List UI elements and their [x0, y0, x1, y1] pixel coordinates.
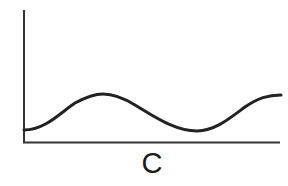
x-axis-label: C [134, 148, 170, 178]
wave-diagram: C [0, 0, 288, 186]
wave-curve [24, 94, 281, 131]
